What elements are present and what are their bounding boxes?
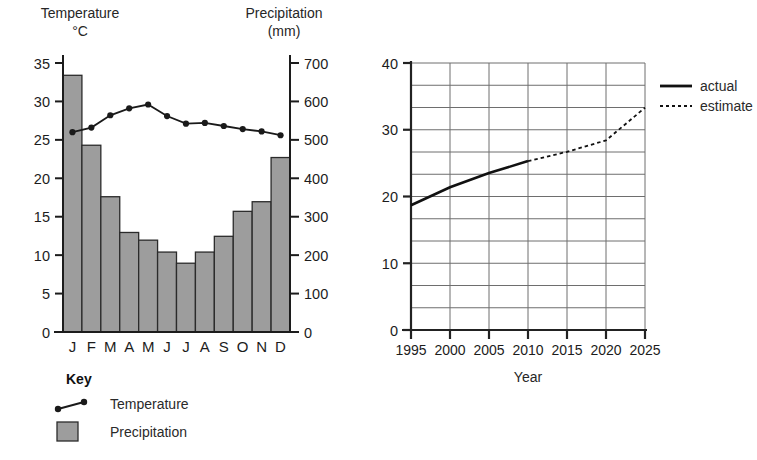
y-tick-label: 0: [390, 323, 398, 339]
x-tick-label: 2000: [434, 342, 465, 358]
legend-estimate-label: estimate: [700, 98, 753, 114]
y-tick-label: 40: [382, 56, 398, 72]
x-tick-label: 2005: [473, 342, 504, 358]
figure-root: Temperature°CPrecipitation(mm)0510152025…: [0, 0, 757, 460]
y-tick-label: 30: [382, 122, 398, 138]
y-tick-label: 10: [382, 256, 398, 272]
trend-chart: 0102030401995200020052010201520202025Yea…: [0, 0, 757, 460]
x-tick-label: 1995: [395, 342, 426, 358]
actual-line: [411, 161, 528, 205]
legend-actual-label: actual: [700, 78, 737, 94]
x-tick-label: 2010: [512, 342, 543, 358]
y-tick-label: 20: [382, 189, 398, 205]
x-tick-label: 2015: [551, 342, 582, 358]
estimate-line: [528, 108, 645, 161]
x-tick-label: 2025: [629, 342, 660, 358]
x-axis-title: Year: [514, 369, 543, 385]
x-tick-label: 2020: [590, 342, 621, 358]
